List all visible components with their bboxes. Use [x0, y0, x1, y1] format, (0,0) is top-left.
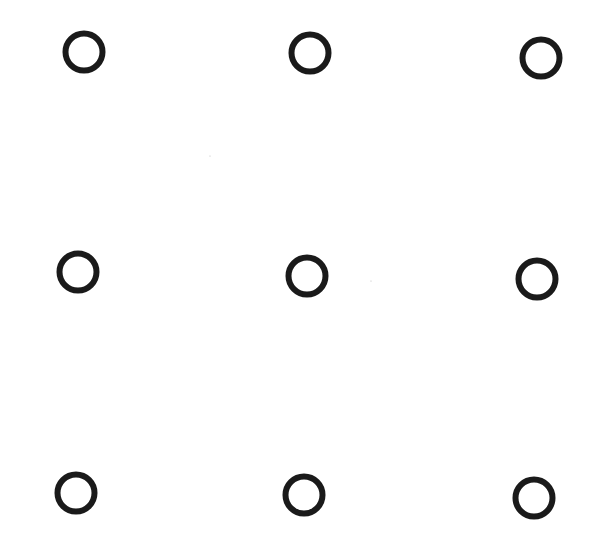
- circle-r1-c2: [292, 35, 329, 72]
- circle-r1-c1: [66, 34, 103, 71]
- circle-grid: [0, 0, 600, 554]
- circle-r2-c3: [519, 261, 556, 298]
- dot-grid-canvas: [0, 0, 600, 554]
- circle-r1-c3: [523, 40, 560, 77]
- circle-r2-c1: [60, 254, 97, 291]
- speck-1: [209, 155, 210, 156]
- circle-r3-c3: [516, 480, 553, 517]
- circle-r3-c2: [286, 477, 323, 514]
- speck-2: [370, 280, 371, 281]
- circle-r3-c1: [58, 475, 95, 512]
- circle-r2-c2: [289, 258, 326, 295]
